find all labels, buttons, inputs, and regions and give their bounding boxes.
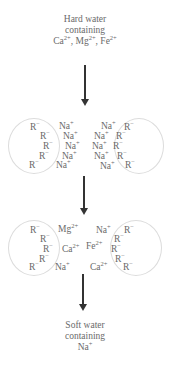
down-arrow-icon: [83, 176, 85, 210]
resin-anion: R−: [125, 160, 135, 171]
ion-na: Na: [78, 342, 89, 352]
ion-charge: 2+: [110, 34, 117, 41]
ion-mg: Mg: [75, 36, 88, 46]
ion-charge: +: [89, 340, 93, 347]
resin-anion: R−: [29, 160, 39, 171]
ion-fe: Fe: [100, 36, 110, 46]
soft-water-ion: Na+: [0, 342, 170, 353]
resin-anion: R−: [30, 225, 40, 236]
resin-anion: R−: [39, 254, 49, 265]
down-arrow-icon: [82, 274, 84, 306]
hard-water-line2: containing: [0, 25, 170, 36]
resin-anion: R−: [29, 262, 39, 273]
sodium-ion: Na+: [96, 225, 111, 236]
soft-water-label: Soft water containing Na+: [0, 320, 170, 353]
soft-water-line1: Soft water: [0, 320, 170, 331]
soft-water-line2: containing: [0, 331, 170, 342]
magnesium-ion: Mg2+: [58, 224, 78, 235]
ion-ca: Ca: [53, 36, 64, 46]
hard-water-ions: Ca2+, Mg2+, Fe2+: [0, 36, 170, 47]
sodium-ion: Na+: [56, 160, 71, 171]
sodium-ion: Na+: [100, 161, 115, 172]
calcium-ion: Ca2+: [62, 244, 79, 255]
resin-anion: R−: [123, 262, 133, 273]
calcium-ion: Ca2+: [90, 262, 107, 273]
resin-anion: R−: [39, 151, 49, 162]
ion-charge: 2+: [89, 34, 96, 41]
sodium-ion: Na+: [55, 262, 70, 273]
ion-charge: 2+: [64, 34, 71, 41]
down-arrow-icon: [84, 65, 86, 101]
hard-water-line1: Hard water: [0, 14, 170, 25]
resin-anion: R−: [30, 122, 40, 133]
resin-anion: R−: [124, 225, 134, 236]
hard-water-label: Hard water containing Ca2+, Mg2+, Fe2+: [0, 14, 170, 47]
iron-ion: Fe2+: [86, 241, 102, 252]
